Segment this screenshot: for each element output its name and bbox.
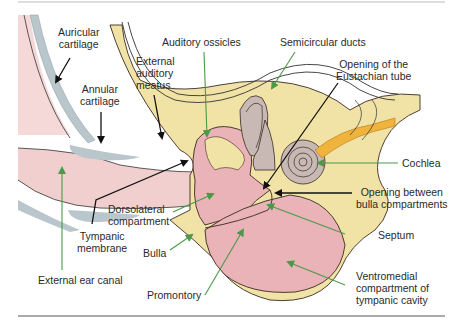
label-external-ear-canal: External ear canal: [38, 274, 123, 286]
label-bulla: Bulla: [143, 247, 166, 259]
label-auricular-cartilage: Auricular cartilage: [58, 26, 99, 50]
label-auditory-ossicles: Auditory ossicles: [162, 36, 241, 48]
label-septum: Septum: [378, 229, 414, 241]
cochlea-shape: [281, 140, 325, 184]
label-external-auditory-meatus: External auditory meatus: [136, 55, 175, 91]
label-promontory: Promontory: [147, 289, 201, 301]
label-dorsolateral: Dorsolateral compartment: [108, 203, 169, 227]
label-opening-between-bulla: Opening between bulla compartments: [356, 186, 448, 210]
label-opening-eustachian-tube: Opening of the Eustachian tube: [336, 58, 411, 82]
label-annular-cartilage: Annular cartilage: [80, 83, 120, 107]
label-ventromedial: Ventromedial compartment of tympanic cav…: [356, 270, 429, 306]
ear-anatomy-diagram: Auricular cartilage Annular cartilage Ex…: [0, 0, 463, 331]
label-semicircular-ducts: Semicircular ducts: [280, 36, 366, 48]
label-tympanic-membrane: Tympanic membrane: [77, 230, 127, 254]
label-cochlea: Cochlea: [402, 157, 441, 169]
